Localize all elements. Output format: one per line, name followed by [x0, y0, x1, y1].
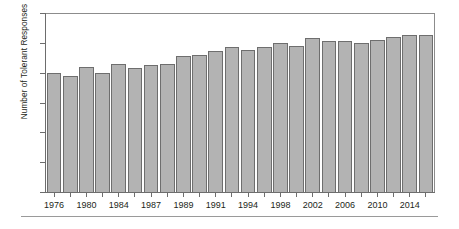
- y-axis-title: Number of Tolerant Responses: [20, 0, 29, 142]
- bar: [95, 73, 110, 192]
- x-axis-tick: [425, 193, 426, 197]
- x-axis-tick: [345, 193, 346, 197]
- bar: [402, 35, 417, 192]
- x-axis-tick: [264, 193, 265, 197]
- x-axis-tick: [134, 193, 135, 197]
- bar: [144, 65, 159, 192]
- footer-rule: [21, 216, 438, 217]
- bar: [305, 38, 320, 192]
- x-axis-tick: [199, 193, 200, 197]
- x-axis-tick: [215, 193, 216, 197]
- bar: [241, 50, 256, 192]
- y-axis-tick: [40, 13, 45, 14]
- x-axis-tick: [248, 193, 249, 197]
- x-axis-tick: [70, 193, 71, 197]
- plot-area: 024681012 197619801984198719891991199419…: [45, 13, 435, 193]
- x-axis-tick: [151, 193, 152, 197]
- y-axis-tick: [40, 73, 45, 74]
- x-axis-tick: [393, 193, 394, 197]
- bar-series: [46, 13, 434, 192]
- x-axis-tick: [102, 193, 103, 197]
- x-axis-tick: [183, 193, 184, 197]
- bar: [289, 46, 304, 192]
- bar: [273, 43, 288, 192]
- x-axis-tick: [118, 193, 119, 197]
- x-axis-tick: [361, 193, 362, 197]
- bar: [176, 56, 191, 192]
- bar: [338, 41, 353, 192]
- bar: [63, 76, 78, 192]
- bar: [79, 67, 94, 192]
- bar: [419, 35, 434, 192]
- bar: [128, 68, 143, 192]
- bar: [257, 47, 272, 192]
- bar-chart-figure: Number of Tolerant Responses 024681012 1…: [0, 0, 459, 229]
- bar: [160, 64, 175, 192]
- x-axis-tick: [328, 193, 329, 197]
- bar: [225, 47, 240, 192]
- y-axis-tick: [40, 132, 45, 133]
- y-axis-tick: [40, 43, 45, 44]
- x-axis-tick: [231, 193, 232, 197]
- x-axis-tick: [312, 193, 313, 197]
- bar: [192, 55, 207, 192]
- x-axis-tick: [409, 193, 410, 197]
- bar: [386, 37, 401, 192]
- x-axis-tick: [167, 193, 168, 197]
- bar: [354, 43, 369, 192]
- x-axis-tick: [377, 193, 378, 197]
- x-axis-tick: [296, 193, 297, 197]
- bar: [370, 40, 385, 192]
- bar: [47, 73, 62, 192]
- x-axis-tick-label: 2014: [390, 201, 430, 210]
- x-axis-tick: [280, 193, 281, 197]
- x-axis-tick: [86, 193, 87, 197]
- bar: [111, 64, 126, 192]
- x-axis-tick: [54, 193, 55, 197]
- y-axis-tick: [40, 192, 45, 193]
- y-axis-tick: [40, 162, 45, 163]
- y-axis-tick: [40, 103, 45, 104]
- axis-right-line: [434, 13, 435, 193]
- bar: [322, 41, 337, 192]
- bar: [208, 51, 223, 192]
